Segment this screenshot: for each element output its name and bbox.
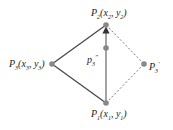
label-p3-prime: P3' bbox=[149, 59, 160, 76]
point-p3 bbox=[49, 61, 55, 67]
dashed-edge-p2-p3prime bbox=[106, 25, 144, 64]
label-p3-double-prime: p3" bbox=[87, 52, 98, 69]
point-p3-prime bbox=[141, 61, 147, 67]
point-p1 bbox=[103, 100, 109, 106]
edge-p3-p1 bbox=[52, 64, 106, 103]
label-p3: P3(x3, y3) bbox=[9, 59, 45, 73]
point-p3-double-prime bbox=[103, 45, 109, 51]
point-p2 bbox=[103, 22, 109, 28]
label-p1: P1(x1, y1) bbox=[91, 109, 127, 123]
dashed-edge-p1-p3prime bbox=[106, 64, 144, 103]
label-p2: P2(x2, y2) bbox=[91, 8, 127, 22]
